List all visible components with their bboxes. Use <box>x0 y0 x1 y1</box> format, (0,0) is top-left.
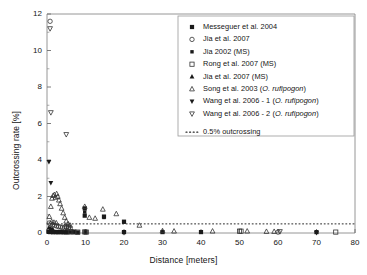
x-tick-label: 10 <box>66 238 106 247</box>
legend-marker-2 <box>190 50 193 53</box>
legend-entry-label: Messeguer et al. 2004 <box>203 22 277 31</box>
y-tick-label: 2 <box>20 192 42 201</box>
scatter-chart-figure: Distance [meters] Outcrossing rate [%] 0… <box>0 0 367 275</box>
plot-canvas <box>0 0 367 275</box>
x-tick-label: 60 <box>258 238 298 247</box>
series-m-sq-fs <box>83 210 126 234</box>
legend-marker-0 <box>190 25 194 29</box>
legend-entry-label: Wang et al. 2006 - 1 (O. rufipogon) <box>203 96 319 105</box>
legend-entry-label: Song et al. 2003 (O. rufipogon) <box>203 84 306 93</box>
legend-entry-label: Wang et al. 2006 - 2 (O. rufipogon) <box>203 109 319 118</box>
legend-entry-label: Rong et al. 2007 (MS) <box>203 59 276 68</box>
y-tick-label: 4 <box>20 155 42 164</box>
x-tick-label: 50 <box>220 238 260 247</box>
x-tick-label: 80 <box>335 238 367 247</box>
x-axis-title: Distance [meters] <box>0 255 367 265</box>
y-tick-label: 8 <box>20 82 42 91</box>
y-tick-label: 6 <box>20 119 42 128</box>
series-m-tu-o <box>47 191 277 233</box>
x-tick-label: 20 <box>104 238 144 247</box>
x-tick-label: 70 <box>297 238 337 247</box>
legend-entry-label: Jia et al. 2007 (MS) <box>203 72 268 81</box>
legend-entry-label: Jia 2002 (MS) <box>203 47 250 56</box>
x-tick-label: 0 <box>27 238 67 247</box>
y-tick-label: 12 <box>20 9 42 18</box>
legend-entry-reference-line: 0.5% outcrossing <box>203 127 261 136</box>
legend-entry-label: Jia et al. 2007 <box>203 34 250 43</box>
x-tick-label: 30 <box>143 238 183 247</box>
y-tick-label: 0 <box>20 228 42 237</box>
x-tick-label: 40 <box>181 238 221 247</box>
y-tick-label: 10 <box>20 46 42 55</box>
